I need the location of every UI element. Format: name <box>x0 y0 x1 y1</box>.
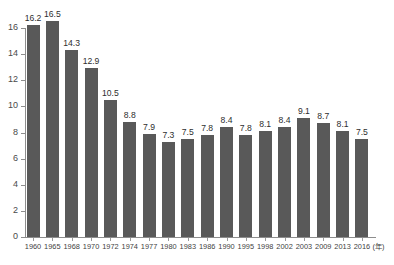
bar <box>143 134 156 237</box>
x-tick-label: 2003 <box>294 243 314 251</box>
y-tick-label: 12 <box>0 75 18 84</box>
bar <box>317 123 330 237</box>
bar <box>104 100 117 237</box>
bar <box>201 135 214 237</box>
bar <box>259 131 272 237</box>
y-tick-label: 2 <box>0 206 18 215</box>
bar-value-label: 7.8 <box>193 124 221 133</box>
x-tick-label: 1972 <box>100 243 120 251</box>
x-tick-mark <box>246 238 247 241</box>
x-tick-label: 1983 <box>178 243 198 251</box>
y-tick-mark <box>21 133 25 134</box>
bar-value-label: 8.8 <box>116 111 144 120</box>
x-tick-mark <box>130 238 131 241</box>
x-tick-label: 1977 <box>139 243 159 251</box>
y-tick-label: 0 <box>0 232 18 241</box>
x-tick-mark <box>323 238 324 241</box>
x-tick-mark <box>72 238 73 241</box>
x-tick-mark <box>362 238 363 241</box>
bar <box>27 25 40 237</box>
x-tick-label: 1995 <box>236 243 256 251</box>
y-tick-mark <box>21 185 25 186</box>
plot-area: 024681012141616.2196016.5196514.3196812.… <box>0 0 394 265</box>
x-tick-label: 1965 <box>42 243 62 251</box>
bar <box>220 127 233 237</box>
bar <box>278 127 291 237</box>
bar-value-label: 12.9 <box>77 57 105 66</box>
bar <box>123 122 136 237</box>
x-tick-label: 2013 <box>333 243 353 251</box>
x-tick-label: 1968 <box>62 243 82 251</box>
x-tick-mark <box>265 238 266 241</box>
bar <box>239 135 252 237</box>
x-tick-mark <box>91 238 92 241</box>
bar <box>46 21 59 237</box>
y-tick-label: 16 <box>0 23 18 32</box>
x-tick-mark <box>52 238 53 241</box>
x-tick-label: 1960 <box>23 243 43 251</box>
y-tick-label: 8 <box>0 128 18 137</box>
bar <box>181 139 194 237</box>
x-tick-label: 1974 <box>120 243 140 251</box>
x-tick-mark <box>33 238 34 241</box>
bar <box>336 131 349 237</box>
x-tick-mark <box>304 238 305 241</box>
x-tick-label: 1970 <box>81 243 101 251</box>
bar-chart: 024681012141616.2196016.5196514.3196812.… <box>0 0 394 265</box>
x-tick-label: 2002 <box>275 243 295 251</box>
x-axis-unit-label: (年) <box>372 243 384 251</box>
x-tick-label: 1986 <box>197 243 217 251</box>
y-tick-mark <box>21 80 25 81</box>
y-tick-label: 4 <box>0 180 18 189</box>
bar <box>162 142 175 237</box>
bar-value-label: 10.5 <box>96 89 124 98</box>
x-tick-mark <box>168 238 169 241</box>
y-tick-mark <box>21 54 25 55</box>
bar-value-label: 7.5 <box>348 128 376 137</box>
y-tick-label: 14 <box>0 49 18 58</box>
x-tick-mark <box>110 238 111 241</box>
bar <box>355 139 368 237</box>
x-tick-mark <box>227 238 228 241</box>
y-tick-mark <box>21 211 25 212</box>
bar <box>65 50 78 237</box>
x-tick-mark <box>207 238 208 241</box>
bar-value-label: 14.3 <box>58 39 86 48</box>
x-tick-mark <box>285 238 286 241</box>
x-tick-mark <box>188 238 189 241</box>
bar <box>297 118 310 237</box>
y-tick-label: 10 <box>0 101 18 110</box>
x-tick-label: 2016 <box>352 243 372 251</box>
x-tick-label: 1980 <box>158 243 178 251</box>
x-tick-label: 2009 <box>313 243 333 251</box>
bar-value-label: 16.5 <box>38 10 66 19</box>
x-tick-label: 1990 <box>217 243 237 251</box>
x-tick-mark <box>149 238 150 241</box>
x-tick-label: 1998 <box>255 243 275 251</box>
y-tick-mark <box>21 106 25 107</box>
y-tick-mark <box>21 159 25 160</box>
x-tick-mark <box>343 238 344 241</box>
bar-value-label: 8.4 <box>271 116 299 125</box>
y-tick-label: 6 <box>0 154 18 163</box>
y-tick-mark <box>21 28 25 29</box>
